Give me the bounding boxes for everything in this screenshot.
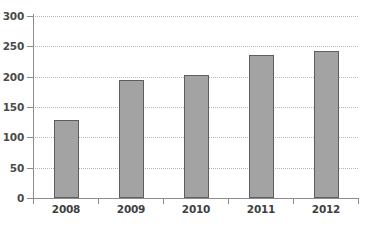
y-tick-label-250: 250 xyxy=(0,41,24,52)
y-tick-label-0: 0 xyxy=(0,193,24,204)
x-axis-label-2008: 2008 xyxy=(36,204,96,215)
y-tick-label-50: 50 xyxy=(0,163,24,174)
y-tick-label-100: 100 xyxy=(0,132,24,143)
x-tick-0 xyxy=(33,198,34,204)
bar-2012[interactable] xyxy=(314,51,339,198)
y-tick-label-200: 200 xyxy=(0,72,24,83)
y-tick-300 xyxy=(27,16,33,17)
bar-2009[interactable] xyxy=(119,80,144,198)
bar-2008[interactable] xyxy=(54,120,79,198)
y-axis-line xyxy=(33,14,34,199)
x-tick-5 xyxy=(358,198,359,204)
x-axis-label-2011: 2011 xyxy=(231,204,291,215)
bar-2010[interactable] xyxy=(184,75,209,198)
y-tick-100 xyxy=(27,137,33,138)
y-tick-label-150: 150 xyxy=(0,102,24,113)
x-tick-1 xyxy=(98,198,99,204)
y-tick-150 xyxy=(27,107,33,108)
gridline-300 xyxy=(33,16,358,17)
x-axis-line xyxy=(33,198,359,199)
gridline-250 xyxy=(33,46,358,47)
x-tick-2 xyxy=(163,198,164,204)
bar-chart: 300 250 200 150 100 50 0 2008 2009 2010 … xyxy=(0,0,369,227)
x-axis-label-2012: 2012 xyxy=(296,204,356,215)
y-tick-50 xyxy=(27,168,33,169)
x-tick-4 xyxy=(293,198,294,204)
bar-2011[interactable] xyxy=(249,55,274,198)
x-axis-label-2010: 2010 xyxy=(166,204,226,215)
y-tick-250 xyxy=(27,46,33,47)
x-axis-label-2009: 2009 xyxy=(101,204,161,215)
x-tick-3 xyxy=(228,198,229,204)
y-tick-label-300: 300 xyxy=(0,11,24,22)
y-tick-200 xyxy=(27,77,33,78)
